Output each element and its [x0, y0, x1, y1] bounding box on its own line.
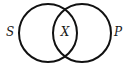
- venn-diagram: S X P: [0, 0, 129, 66]
- label-p: P: [113, 25, 123, 39]
- label-x-intersection: X: [60, 25, 70, 39]
- label-s: S: [6, 25, 14, 39]
